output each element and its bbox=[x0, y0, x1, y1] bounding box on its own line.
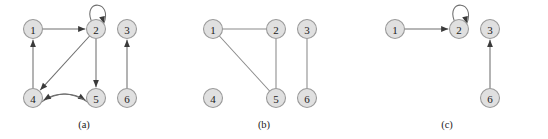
graph-node-b-3[interactable]: 3 bbox=[298, 20, 317, 39]
node-label-c-3: 3 bbox=[487, 24, 493, 36]
node-label-a-1: 1 bbox=[30, 24, 36, 36]
node-label-b-4: 4 bbox=[210, 93, 216, 105]
node-label-b-2: 2 bbox=[273, 24, 279, 36]
edge-c-6-3-arrowhead bbox=[487, 40, 493, 47]
graph-node-b-4[interactable]: 4 bbox=[204, 89, 223, 108]
node-label-b-1: 1 bbox=[210, 24, 216, 36]
graph-node-c-6[interactable]: 6 bbox=[481, 89, 500, 108]
graph-panel-b: 123456(b) bbox=[204, 20, 317, 131]
graph-node-a-3[interactable]: 3 bbox=[118, 20, 137, 39]
edge-a-2-4 bbox=[40, 36, 89, 90]
node-label-c-1: 1 bbox=[392, 24, 398, 36]
node-label-c-2: 2 bbox=[456, 24, 462, 36]
graph-node-b-5[interactable]: 5 bbox=[267, 89, 286, 108]
panel-caption-a: (a) bbox=[78, 119, 90, 131]
edge-layer-a bbox=[30, 5, 130, 102]
graph-node-b-6[interactable]: 6 bbox=[298, 89, 317, 108]
graph-panel-a: 123456(a) bbox=[24, 5, 137, 130]
panel-caption-b: (b) bbox=[258, 119, 271, 131]
node-label-a-5: 5 bbox=[93, 93, 99, 105]
graph-node-c-1[interactable]: 1 bbox=[386, 20, 405, 39]
node-label-c-6: 6 bbox=[487, 93, 493, 105]
edge-a-5-4-arrowhead bbox=[44, 94, 52, 100]
node-label-a-2: 2 bbox=[93, 24, 99, 36]
edge-a-6-3-arrowhead bbox=[124, 40, 130, 47]
graph-figure-canvas: 123456(a)123456(b)1236(c) bbox=[0, 0, 548, 139]
node-layer-b: 123456 bbox=[204, 20, 317, 108]
graph-node-c-2[interactable]: 2 bbox=[450, 20, 469, 39]
edge-c-1-2-arrowhead bbox=[441, 26, 448, 32]
node-layer-c: 1236 bbox=[386, 20, 500, 108]
edge-a-4-1-arrowhead bbox=[30, 40, 36, 47]
node-label-a-3: 3 bbox=[124, 24, 130, 36]
graph-node-a-6[interactable]: 6 bbox=[118, 89, 137, 108]
edge-layer-c bbox=[405, 5, 493, 88]
edge-layer-b bbox=[219, 29, 307, 91]
graph-node-b-1[interactable]: 1 bbox=[204, 20, 223, 39]
node-label-b-6: 6 bbox=[304, 93, 310, 105]
node-label-b-3: 3 bbox=[304, 24, 310, 36]
edge-a-1-2-arrowhead bbox=[78, 26, 85, 32]
node-label-a-4: 4 bbox=[30, 93, 36, 105]
graph-figure: 123456(a)123456(b)1236(c) bbox=[0, 0, 548, 139]
node-label-b-5: 5 bbox=[273, 93, 279, 105]
graph-node-a-4[interactable]: 4 bbox=[24, 89, 43, 108]
edge-b-1-5 bbox=[219, 36, 269, 91]
node-label-a-6: 6 bbox=[124, 93, 130, 105]
graph-node-a-1[interactable]: 1 bbox=[24, 20, 43, 39]
edge-a-2-5-arrowhead bbox=[93, 80, 99, 87]
graph-node-b-2[interactable]: 2 bbox=[267, 20, 286, 39]
graph-node-c-3[interactable]: 3 bbox=[481, 20, 500, 39]
graph-node-a-5[interactable]: 5 bbox=[87, 89, 106, 108]
graph-panel-c: 1236(c) bbox=[386, 5, 500, 130]
panel-caption-c: (c) bbox=[441, 119, 453, 131]
graph-node-a-2[interactable]: 2 bbox=[87, 20, 106, 39]
node-layer-a: 123456 bbox=[24, 20, 137, 108]
